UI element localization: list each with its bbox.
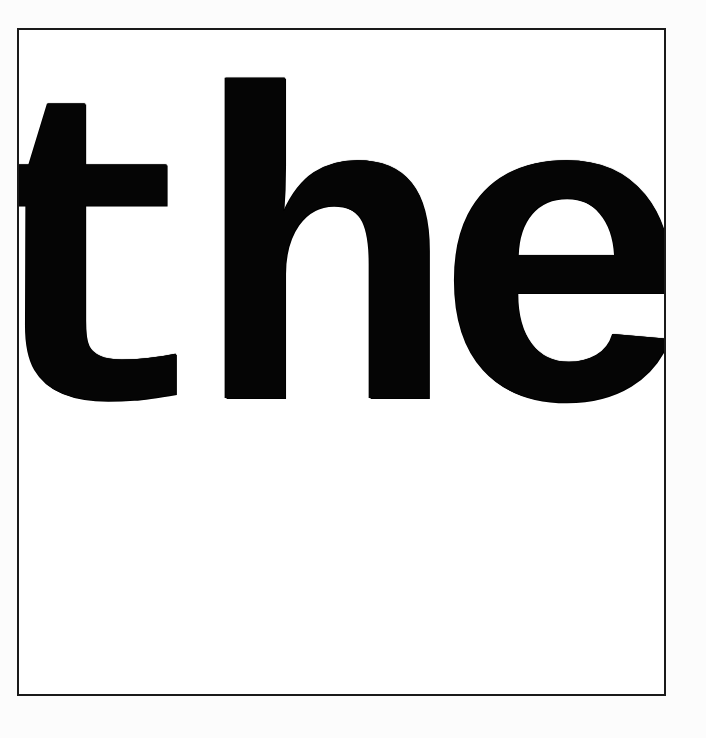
large-word-text: the bbox=[17, 60, 666, 502]
bordered-frame: the bbox=[17, 28, 666, 696]
scanned-page: the bbox=[0, 0, 706, 738]
